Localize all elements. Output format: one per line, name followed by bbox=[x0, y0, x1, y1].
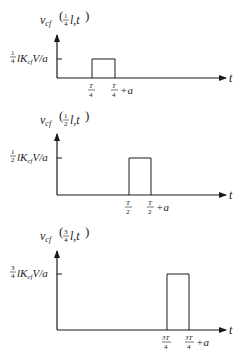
pulse-diagram: vcf ( 1 4 l,t ) t 1 4 lKcfV/a T 4 T 4 +a… bbox=[0, 0, 246, 364]
paren-close: ) bbox=[85, 108, 89, 123]
y-label-args: l,t bbox=[70, 13, 80, 27]
pulse bbox=[129, 158, 151, 195]
paren-open: ( bbox=[59, 108, 63, 123]
end-den: 2 bbox=[148, 208, 152, 216]
level-label: lKcfV/a bbox=[17, 52, 48, 66]
start-den: 4 bbox=[164, 343, 168, 351]
panel-half-l: vcf ( 1 2 l,t ) t 1 2 lKcfV/a T 2 T 2 +a bbox=[10, 108, 233, 216]
panel-three-quarter-l: vcf ( 3 4 l,t ) t 3 4 lKcfV/a 3T 4 3T 4 … bbox=[10, 224, 233, 351]
pulse bbox=[92, 59, 115, 78]
frac-den: 4 bbox=[64, 236, 68, 244]
start-num: 3T bbox=[161, 334, 171, 342]
end-num: T bbox=[112, 82, 117, 90]
frac-den: 2 bbox=[64, 120, 68, 128]
frac-num: 1 bbox=[64, 112, 68, 120]
level-frac-num: 1 bbox=[11, 49, 15, 57]
frac-num: 3 bbox=[64, 228, 68, 236]
start-den: 2 bbox=[126, 208, 130, 216]
pulse bbox=[167, 274, 189, 330]
x-axis-label: t bbox=[229, 323, 233, 337]
y-axis-label: vcf bbox=[40, 113, 53, 128]
level-label: lKcfV/a bbox=[17, 267, 48, 281]
frac-den: 4 bbox=[64, 20, 68, 28]
panel-quarter-l: vcf ( 1 4 l,t ) t 1 4 lKcfV/a T 4 T 4 +a bbox=[10, 8, 233, 99]
end-num: T bbox=[148, 199, 153, 207]
paren-close: ) bbox=[85, 8, 89, 23]
level-frac-den: 2 bbox=[11, 156, 15, 164]
level-frac-den: 4 bbox=[11, 272, 15, 280]
x-axis-label: t bbox=[229, 188, 233, 202]
paren-close: ) bbox=[85, 224, 89, 239]
frac-num: 1 bbox=[64, 12, 68, 20]
end-den: 4 bbox=[187, 343, 191, 351]
start-num: T bbox=[89, 82, 94, 90]
level-label: lKcfV/a bbox=[17, 151, 48, 165]
x-axis-label: t bbox=[229, 71, 233, 85]
y-axis-label: vcf bbox=[40, 229, 53, 244]
y-axis-label: vcf bbox=[40, 13, 53, 28]
end-tail: +a bbox=[196, 336, 209, 348]
end-tail: +a bbox=[156, 201, 169, 213]
paren-open: ( bbox=[59, 8, 63, 23]
y-label-args: l,t bbox=[70, 229, 80, 243]
start-den: 4 bbox=[89, 91, 93, 99]
end-den: 4 bbox=[112, 91, 116, 99]
end-num: 3T bbox=[184, 334, 194, 342]
level-frac-num: 3 bbox=[11, 264, 15, 272]
y-label-args: l,t bbox=[70, 113, 80, 127]
paren-open: ( bbox=[59, 224, 63, 239]
level-frac-num: 1 bbox=[11, 148, 15, 156]
level-frac-den: 4 bbox=[11, 57, 15, 65]
start-num: T bbox=[126, 199, 131, 207]
end-tail: +a bbox=[120, 84, 133, 96]
